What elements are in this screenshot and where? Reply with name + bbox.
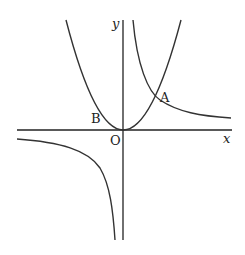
origin-label: O — [110, 133, 121, 148]
point-a-label: A — [159, 90, 170, 105]
hyperbola-branch-q3 — [17, 139, 115, 240]
hyperbola-branch-q1 — [133, 20, 231, 118]
point-b-label: B — [91, 111, 101, 126]
x-axis-label: x — [223, 131, 231, 146]
coordinate-diagram: y x O A B — [0, 0, 245, 255]
y-axis-label: y — [111, 16, 120, 31]
